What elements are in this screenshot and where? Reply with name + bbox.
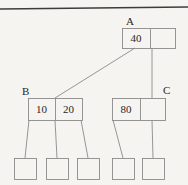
leaf-box-layer: [15, 159, 165, 180]
leaf-box-l4[interactable]: [113, 159, 135, 180]
node-c-cell-1-value[interactable]: 80: [112, 104, 140, 115]
edge-b-to-l3: [81, 120, 88, 158]
node-label-c: C: [163, 85, 170, 96]
btree-diagram-canvas: ABC 40102080: [0, 0, 188, 185]
leaf-box-l5[interactable]: [143, 159, 165, 180]
edge-c-to-l4: [113, 120, 123, 158]
node-a-cell-1-value[interactable]: 40: [122, 33, 150, 44]
leaf-box-l2[interactable]: [47, 159, 69, 180]
node-b-cell-1-value[interactable]: 10: [28, 104, 55, 115]
edge-b-to-l1: [25, 120, 29, 158]
edge-a-to-b: [55, 48, 135, 98]
node-label-b: B: [22, 86, 29, 97]
node-b-cell-2-value[interactable]: 20: [55, 104, 82, 115]
leaf-box-l3[interactable]: [78, 159, 100, 180]
top-horizontal-rule: [0, 7, 188, 9]
edge-b-to-l2: [55, 120, 57, 158]
top-rule-layer: [0, 7, 188, 9]
leaf-box-l1[interactable]: [15, 159, 37, 180]
node-label-a: A: [126, 16, 134, 27]
edge-c-to-l5: [152, 120, 153, 158]
